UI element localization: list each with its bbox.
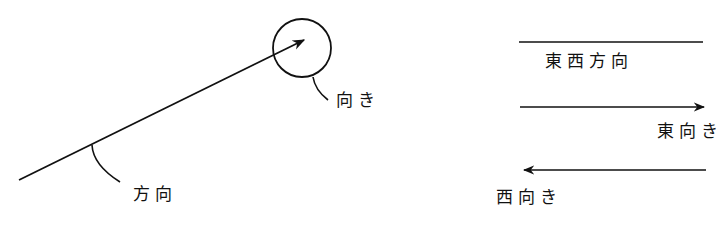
orientation-label: 向き — [336, 92, 380, 109]
west-arrow-label: 西向き — [496, 189, 562, 206]
east-west-line-label: 東西方向 — [545, 53, 633, 70]
direction-leader — [92, 145, 120, 182]
direction-diagram — [19, 19, 331, 182]
orientation-circle — [273, 19, 331, 77]
direction-line — [19, 40, 304, 180]
orientation-leader — [313, 77, 328, 100]
diagram-canvas — [0, 0, 728, 229]
direction-label: 方向 — [133, 186, 177, 203]
east-arrow-label: 東向き — [657, 123, 723, 140]
